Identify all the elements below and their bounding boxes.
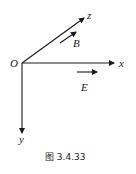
coordinate-diagram: O z x y B E 图 3.4.33 bbox=[0, 0, 136, 174]
figure-caption: 图 3.4.33 bbox=[45, 152, 86, 162]
y-axis-label: y bbox=[18, 133, 24, 145]
e-vector-label: E bbox=[80, 81, 88, 93]
origin-label: O bbox=[10, 57, 18, 69]
b-vector-label: B bbox=[73, 37, 80, 49]
z-axis-label: z bbox=[86, 9, 92, 21]
x-axis-label: x bbox=[118, 57, 124, 69]
